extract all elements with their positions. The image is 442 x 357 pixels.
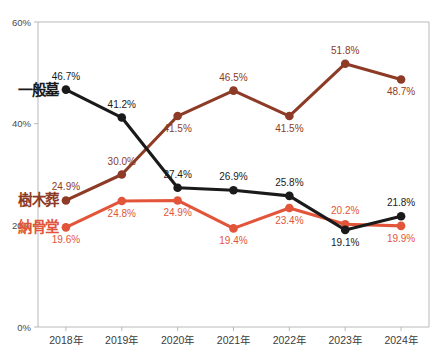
line-chart: 0%20%40%60% 2018年2019年2020年2021年2022年202…	[0, 0, 442, 357]
x-axis-tick-label: 2018年	[49, 334, 82, 346]
data-label: 41.5%	[275, 123, 303, 134]
data-label: 23.4%	[275, 215, 303, 226]
series-marker	[397, 212, 406, 221]
data-label: 46.7%	[52, 71, 80, 82]
x-axis-tick-label: 2023年	[329, 334, 362, 346]
data-label: 41.5%	[163, 123, 191, 134]
series-marker	[229, 86, 238, 95]
series-marker	[173, 183, 182, 192]
series-marker	[173, 196, 182, 205]
data-label: 24.8%	[108, 208, 136, 219]
series-name-label: 納骨堂	[18, 218, 59, 235]
series-marker	[285, 192, 294, 201]
series-marker	[62, 196, 71, 205]
data-label: 24.9%	[163, 207, 191, 218]
series-marker	[62, 85, 71, 94]
series-marker	[397, 75, 406, 84]
data-label: 46.5%	[219, 72, 247, 83]
data-label: 19.4%	[219, 235, 247, 246]
series-marker	[341, 226, 350, 235]
series-marker	[341, 59, 350, 68]
series-marker	[229, 186, 238, 195]
data-label: 21.8%	[387, 197, 415, 208]
data-label: 27.4%	[163, 169, 191, 180]
x-axis-tick-label: 2021年	[217, 334, 250, 346]
data-label: 19.9%	[387, 233, 415, 244]
chart-data-labels: 24.9%30.0%41.5%46.5%41.5%51.8%48.7%19.6%…	[52, 45, 416, 248]
series-marker	[397, 222, 406, 231]
series-marker	[62, 223, 71, 232]
series-marker	[173, 112, 182, 121]
series-name-label: 一般墓	[18, 81, 60, 98]
y-axis-tick-label: 40%	[12, 118, 32, 129]
y-axis-tick-label: 60%	[12, 17, 32, 28]
data-label: 19.6%	[52, 234, 80, 245]
chart-series-names: 一般墓樹木葬納骨堂	[18, 81, 60, 236]
y-axis-tick-label: 0%	[17, 322, 31, 333]
data-label: 51.8%	[331, 45, 359, 56]
x-axis-tick-label: 2022年	[273, 334, 306, 346]
series-marker	[229, 224, 238, 233]
x-axis-labels: 2018年2019年2020年2021年2022年2023年2024年	[49, 334, 418, 346]
chart-canvas: 0%20%40%60% 2018年2019年2020年2021年2022年202…	[0, 0, 442, 357]
series-marker	[117, 197, 126, 206]
x-axis-tick-label: 2019年	[105, 334, 138, 346]
data-label: 25.8%	[275, 177, 303, 188]
series-marker	[285, 112, 294, 121]
data-label: 24.9%	[52, 181, 80, 192]
data-label: 19.1%	[331, 237, 359, 248]
series-name-label: 樹木葬	[18, 191, 60, 208]
y-axis-labels: 0%20%40%60%	[12, 17, 32, 333]
data-label: 41.2%	[108, 99, 136, 110]
x-axis-tick-label: 2020年	[161, 334, 194, 346]
data-label: 30.0%	[108, 156, 136, 167]
data-label: 26.9%	[219, 171, 247, 182]
data-label: 48.7%	[387, 86, 415, 97]
series-marker	[117, 170, 126, 179]
series-marker	[285, 204, 294, 213]
x-axis-tick-label: 2024年	[384, 334, 417, 346]
series-marker	[117, 113, 126, 122]
data-label: 20.2%	[331, 205, 359, 216]
